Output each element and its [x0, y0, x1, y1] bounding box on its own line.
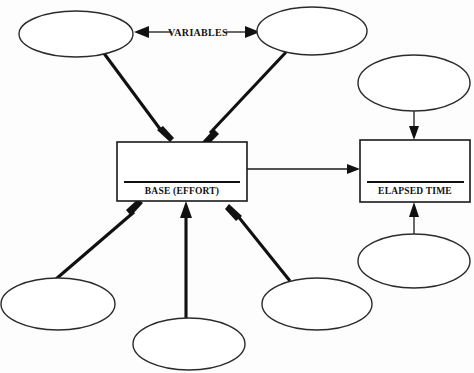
connector-variables-left: [134, 26, 172, 38]
connector-line: [56, 212, 134, 279]
connector-line: [103, 52, 163, 133]
connector-variables-right: [226, 26, 260, 38]
box-node-elapsed[interactable]: ELAPSED TIME: [360, 140, 470, 202]
connector-line: [210, 50, 288, 133]
box-node-base[interactable]: BASE (EFFORT): [117, 142, 247, 201]
arrowhead-icon: [409, 126, 419, 140]
connector-topleft-to-base: [103, 52, 174, 142]
ellipse-node-top-right[interactable]: [257, 7, 367, 55]
connector-bottomright-to-base: [225, 204, 290, 281]
arrowhead-icon: [180, 201, 192, 218]
connector-upperright-to-elapsed: [409, 111, 419, 140]
ellipse-node-bottom-left[interactable]: [1, 278, 115, 330]
box-label-elapsed: ELAPSED TIME: [378, 186, 452, 196]
arrowhead-icon: [347, 164, 360, 174]
effort-elapsed-time-diagram: BASE (EFFORT) ELAPSED TIME VARIABLES: [0, 0, 474, 373]
arrowhead-icon: [134, 26, 149, 38]
connector-midright-to-elapsed: [409, 202, 419, 234]
arrowhead-icon: [157, 126, 174, 142]
connector-bottomcenter-to-base: [180, 201, 192, 318]
connector-line: [237, 215, 290, 281]
ellipse-node-upper-right[interactable]: [358, 55, 470, 111]
ellipse-node-mid-right[interactable]: [358, 234, 470, 288]
arrowhead-icon: [409, 202, 419, 217]
connector-topright-to-base: [202, 50, 288, 146]
variables-label: VARIABLES: [168, 27, 228, 38]
diagram-canvas: BASE (EFFORT) ELAPSED TIME VARIABLES: [0, 0, 474, 373]
connector-bottomleft-to-base: [56, 199, 143, 279]
box-label-base: BASE (EFFORT): [145, 186, 219, 197]
connector-base-to-elapsed: [247, 164, 360, 174]
ellipse-node-bottom-right[interactable]: [262, 278, 372, 330]
ellipse-node-bottom-center[interactable]: [133, 318, 245, 370]
ellipse-node-top-left[interactable]: [19, 11, 133, 57]
